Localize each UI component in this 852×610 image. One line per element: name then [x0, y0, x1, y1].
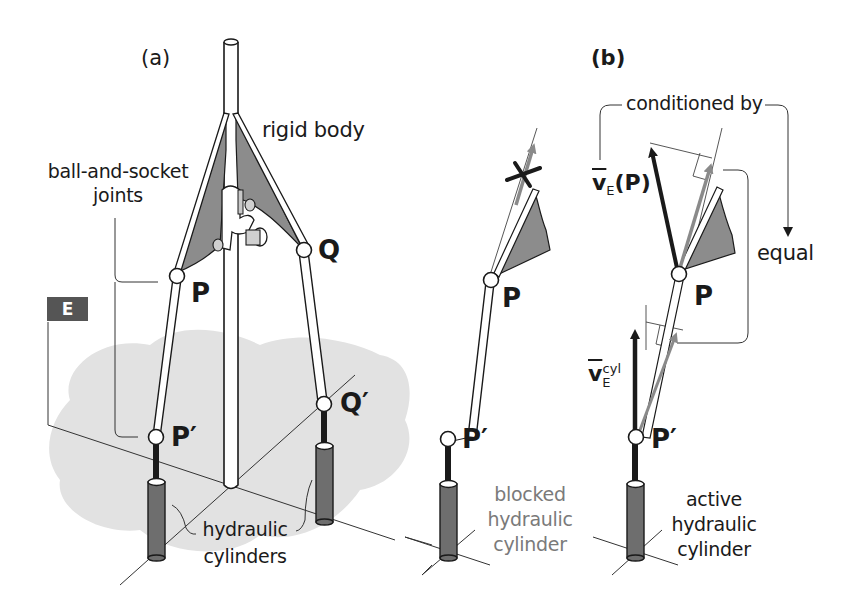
velocity-p-subscript: E [606, 183, 614, 198]
cylinders-label-line1: hydraulic [190, 520, 300, 539]
joints-label-line1: ball-and-socket [38, 162, 198, 181]
hydraulic-cylinder-left [148, 479, 165, 562]
middle-point-p-label: P [502, 285, 521, 311]
velocity-p-label: vE(P) [592, 172, 651, 197]
point-p-label: P [191, 280, 210, 306]
blocked-caption-line3: cylinder [480, 535, 580, 554]
blocked-caption-line2: hydraulic [480, 510, 580, 529]
joints-label-line2: joints [38, 186, 198, 205]
frame-e-badge: E [47, 297, 88, 321]
active-caption-line3: cylinder [664, 540, 764, 559]
middle-point-p-prime-label: P′ [462, 426, 488, 452]
conditioned-by-label: conditioned by [626, 94, 763, 113]
point-p-prime-label: P′ [171, 424, 197, 450]
velocity-p-argument: (P) [615, 170, 651, 195]
active-caption-line2: hydraulic [664, 515, 764, 534]
cylinders-label-line2: cylinders [190, 547, 300, 566]
point-q-prime-label: Q′ [340, 390, 369, 416]
blocked-caption-line1: blocked [480, 485, 580, 504]
velocity-cyl-label: vEcyl [588, 362, 629, 389]
velocity-cyl-symbol: v [588, 361, 602, 386]
velocity-p-symbol: v [592, 170, 606, 195]
active-caption-line1: active [664, 490, 764, 509]
b-point-p-label: P [694, 283, 713, 309]
velocity-cyl-subscript: E [602, 375, 610, 390]
velocity-cyl-superscript: cyl [603, 361, 621, 376]
point-q-label: Q [318, 237, 340, 263]
panel-a-label: (a) [141, 48, 170, 69]
hydraulic-cylinder-right [316, 443, 333, 526]
b-point-p-prime-label: P′ [651, 426, 677, 452]
panel-b-label: (b) [591, 48, 625, 69]
equal-label: equal [757, 243, 814, 264]
panel-a-graphics [48, 39, 432, 585]
figure-canvas: (a) rigid body ball-and-socket joints E … [0, 0, 852, 610]
rigid-body-label: rigid body [262, 120, 365, 141]
